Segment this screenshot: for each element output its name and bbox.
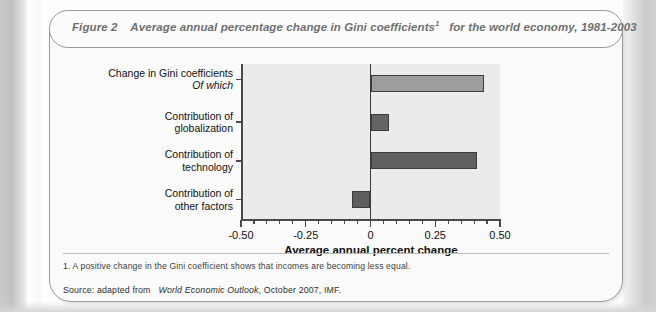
x-tick-minor bbox=[318, 220, 319, 224]
figure-title-suffix: for the world economy, 1981-2003 bbox=[449, 21, 636, 33]
x-tick-minor bbox=[474, 220, 475, 224]
category-label-line: Contribution of bbox=[68, 148, 233, 161]
y-axis-line bbox=[241, 64, 243, 220]
x-tick-minor bbox=[383, 220, 384, 224]
x-tick-minor bbox=[292, 220, 293, 224]
x-axis-title: Average annual percent change bbox=[241, 244, 501, 256]
x-tick-minor bbox=[409, 220, 410, 224]
x-tick-label: 0.50 bbox=[470, 229, 530, 241]
page-bottom-shade bbox=[0, 302, 656, 312]
x-tick-major bbox=[240, 220, 241, 227]
y-tick bbox=[236, 199, 241, 201]
y-tick bbox=[236, 121, 241, 123]
category-label-line: technology bbox=[68, 161, 233, 174]
x-tick-minor bbox=[396, 220, 397, 224]
page-gutter-left bbox=[0, 0, 27, 312]
category-label-line: Of which bbox=[68, 79, 233, 92]
category-label-line: other factors bbox=[68, 200, 233, 213]
category-label: Contribution oftechnology bbox=[68, 148, 233, 173]
x-tick-label: -0.50 bbox=[211, 229, 271, 241]
x-tick-minor bbox=[279, 220, 280, 224]
x-tick-minor bbox=[266, 220, 267, 224]
x-tick-minor bbox=[461, 220, 462, 224]
bar bbox=[371, 114, 389, 131]
x-tick-major bbox=[305, 220, 306, 227]
source-publication: World Economic Outlook bbox=[158, 285, 258, 295]
x-tick-minor bbox=[253, 220, 254, 224]
figure-title-footnote-marker: 1 bbox=[435, 19, 439, 28]
y-tick bbox=[236, 79, 241, 81]
x-tick-minor bbox=[448, 220, 449, 224]
category-label: Contribution ofother factors bbox=[68, 187, 233, 212]
x-tick-minor bbox=[344, 220, 345, 224]
bar bbox=[371, 152, 477, 169]
category-label-line: Contribution of bbox=[68, 110, 233, 123]
category-label-line: globalization bbox=[68, 122, 233, 135]
page-gutter-right bbox=[623, 0, 656, 312]
bar-chart: Change in Gini coefficientsOf whichContr… bbox=[49, 52, 623, 250]
figure-source: Source: adapted from World Economic Outl… bbox=[63, 285, 603, 295]
page-gutter-left-inner bbox=[27, 0, 41, 312]
category-label-line: Change in Gini coefficients bbox=[68, 67, 233, 80]
x-tick-label: 0 bbox=[341, 229, 401, 241]
notes-divider bbox=[63, 253, 609, 254]
source-suffix: , October 2007, IMF. bbox=[259, 285, 342, 295]
x-tick-minor bbox=[486, 220, 487, 224]
figure-title-prefix: Figure 2 bbox=[72, 21, 118, 33]
x-tick-major bbox=[435, 220, 436, 227]
x-tick-minor bbox=[331, 220, 332, 224]
x-tick-major bbox=[370, 220, 371, 227]
category-label: Contribution ofglobalization bbox=[68, 110, 233, 135]
bar bbox=[352, 191, 370, 208]
bar bbox=[371, 75, 485, 92]
figure-footnote: 1. A positive change in the Gini coeffic… bbox=[63, 261, 603, 271]
figure-title-text: Average annual percentage change in Gini… bbox=[130, 21, 435, 33]
x-tick-minor bbox=[357, 220, 358, 224]
x-tick-label: 0.25 bbox=[405, 229, 465, 241]
x-tick-major bbox=[499, 220, 500, 227]
category-label-line: Contribution of bbox=[68, 187, 233, 200]
source-prefix: Source: adapted from bbox=[63, 285, 151, 295]
x-tick-minor bbox=[422, 220, 423, 224]
scanned-page: Figure 2 Average annual percentage chang… bbox=[0, 0, 656, 312]
y-tick bbox=[236, 160, 241, 162]
figure-title: Figure 2 Average annual percentage chang… bbox=[72, 19, 612, 33]
category-label: Change in Gini coefficientsOf which bbox=[68, 67, 233, 92]
x-tick-label: -0.25 bbox=[276, 229, 336, 241]
